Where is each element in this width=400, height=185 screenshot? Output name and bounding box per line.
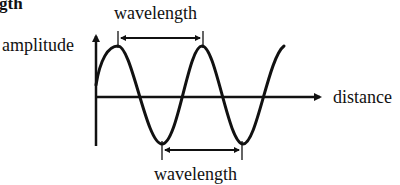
- distance-label: distance: [333, 88, 392, 106]
- wavelength-diagram: gth: [0, 0, 400, 185]
- wavelength-bottom-measure: [162, 141, 242, 160]
- wavelength-bottom-label: wavelength: [154, 165, 237, 183]
- wavelength-top-label: wavelength: [114, 4, 197, 22]
- amplitude-label: amplitude: [2, 36, 74, 54]
- sine-wave: [96, 46, 284, 144]
- wavelength-top-measure: [118, 31, 203, 48]
